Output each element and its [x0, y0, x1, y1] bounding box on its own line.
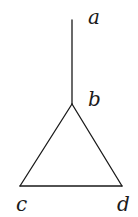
edge-b-c — [20, 104, 72, 186]
edge-b-d — [72, 104, 122, 186]
node-label-d: d — [117, 192, 130, 216]
node-label-c: c — [16, 192, 27, 216]
node-label-a: a — [88, 5, 100, 29]
graph-diagram: a b c d — [0, 0, 138, 217]
node-label-b: b — [88, 87, 101, 111]
